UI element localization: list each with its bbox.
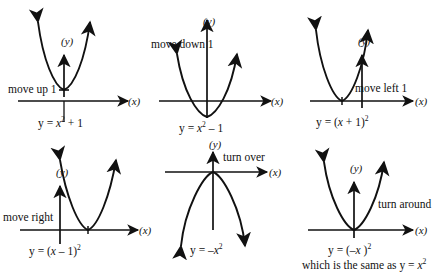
equation-label: y = (x + 1)2: [316, 114, 369, 128]
panel-move-right: (y) (x) move right y = (x – 1)2: [0, 138, 149, 276]
y-axis-label: (y): [56, 166, 68, 178]
x-axis-label: (x): [269, 166, 281, 178]
instruction-label: turn around: [378, 198, 431, 210]
equation-label: y = –x2: [190, 242, 223, 256]
panel-turn-around: (y) (x) turn around y = (–x )2 which is …: [298, 138, 447, 276]
instruction-label: move up 1: [8, 83, 57, 95]
y-axis-label: (y): [358, 35, 370, 47]
instruction-label: move down 1: [151, 38, 214, 50]
equation-label: y = x2 + 1: [38, 115, 83, 129]
panel-move-up-1: (y) (x) move up 1 y = x2 + 1: [0, 0, 149, 138]
parabola-transformations-figure: (y) (x) move up 1 y = x2 + 1 (y) (x) mov…: [0, 0, 447, 276]
y-axis-label: (y): [61, 35, 73, 47]
x-axis-label: (x): [415, 224, 427, 236]
instruction-label: move left 1: [355, 82, 407, 94]
y-axis-label: (y): [203, 15, 215, 27]
equation-label: y = x2 – 1: [179, 120, 223, 134]
graph-move-down-1: [149, 0, 298, 138]
x-axis-label: (x): [271, 95, 283, 107]
y-axis-label: (y): [350, 162, 362, 174]
panel-turn-over: (y) (x) turn over y = –x2: [149, 138, 298, 276]
panel-move-left-1: (y) (x) move left 1 y = (x + 1)2: [298, 0, 447, 138]
equivalence-note: which is the same as y = x2: [302, 257, 426, 271]
equation-label: y = (x – 1)2: [29, 243, 81, 257]
x-axis-label: (x): [128, 95, 140, 107]
instruction-label: move right: [3, 211, 53, 223]
y-axis-label: (y): [209, 138, 221, 150]
equation-label: y = (–x )2: [328, 242, 371, 256]
instruction-label: turn over: [223, 151, 265, 163]
x-axis-label: (x): [415, 95, 427, 107]
parabola-curve: [60, 160, 116, 230]
panel-move-down-1: (y) (x) move down 1 y = x2 – 1: [149, 0, 298, 138]
